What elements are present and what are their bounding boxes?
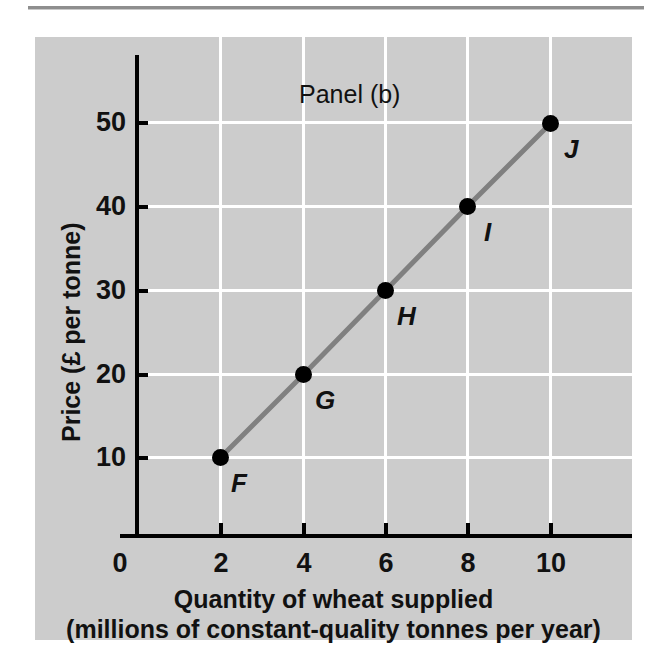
page-rule xyxy=(28,6,644,9)
y-tick-40 xyxy=(136,205,148,209)
data-point-label-g: G xyxy=(315,387,335,413)
gridline-horizontal-20 xyxy=(136,373,632,376)
data-point-label-i: I xyxy=(484,219,491,245)
plot-area: 50 40 30 20 10 0 2 4 6 8 10 F G H I J Pa… xyxy=(35,37,632,640)
x-tick-label-0: 0 xyxy=(90,550,150,577)
x-tick-2 xyxy=(219,523,223,535)
x-tick-label-6: 6 xyxy=(356,550,416,577)
y-tick-label-40: 40 xyxy=(66,193,126,220)
y-tick-label-50: 50 xyxy=(66,109,126,136)
gridline-horizontal-40 xyxy=(136,205,632,208)
panel-title: Panel (b) xyxy=(299,80,400,109)
x-tick-6 xyxy=(384,523,388,535)
data-point-g[interactable] xyxy=(295,366,312,383)
figure-panel: 50 40 30 20 10 0 2 4 6 8 10 F G H I J Pa… xyxy=(35,37,632,640)
x-axis-title: Quantity of wheat supplied (millions of … xyxy=(35,585,632,644)
data-point-f[interactable] xyxy=(212,449,229,466)
x-axis-title-line2: (millions of constant-quality tonnes per… xyxy=(35,615,632,645)
x-tick-8 xyxy=(466,523,470,535)
x-axis-title-line1: Quantity of wheat supplied xyxy=(35,585,632,615)
x-tick-label-8: 8 xyxy=(438,550,498,577)
y-axis-title: Price (£ per tonne) xyxy=(57,223,86,443)
y-tick-30 xyxy=(136,289,148,293)
x-tick-label-10: 10 xyxy=(521,550,581,577)
x-axis-line xyxy=(120,534,632,538)
x-tick-4 xyxy=(302,523,306,535)
x-tick-label-2: 2 xyxy=(191,550,251,577)
data-point-j[interactable] xyxy=(542,115,559,132)
data-point-h[interactable] xyxy=(377,282,394,299)
gridline-horizontal-10 xyxy=(136,456,632,459)
y-tick-20 xyxy=(136,373,148,377)
data-point-i[interactable] xyxy=(459,198,476,215)
y-tick-10 xyxy=(136,456,148,460)
x-tick-10 xyxy=(549,523,553,535)
y-axis-line xyxy=(135,55,139,538)
data-point-label-h: H xyxy=(397,303,416,329)
y-tick-50 xyxy=(136,121,148,125)
data-point-label-j: J xyxy=(564,136,578,162)
y-tick-label-10: 10 xyxy=(66,444,126,471)
x-tick-label-4: 4 xyxy=(274,550,334,577)
data-point-label-f: F xyxy=(231,470,247,496)
